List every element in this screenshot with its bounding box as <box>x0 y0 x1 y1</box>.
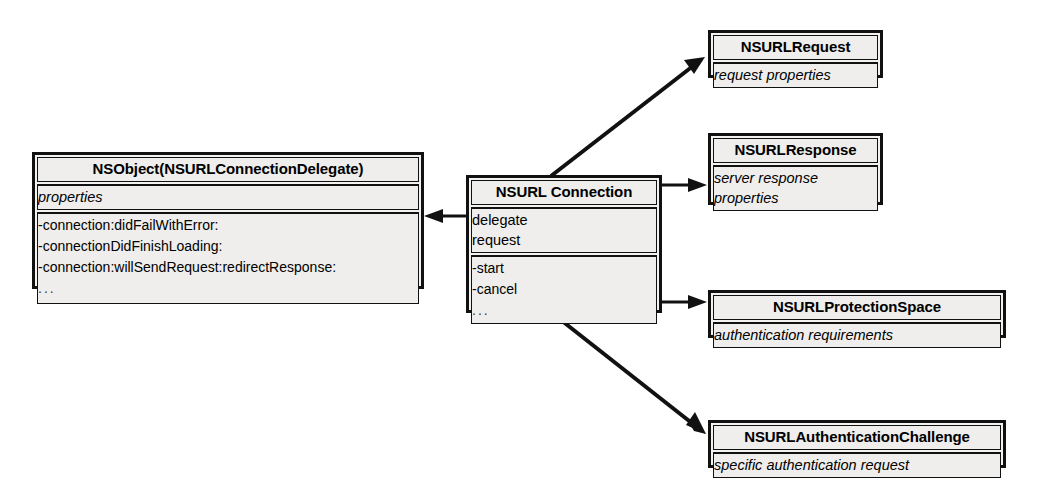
attribute-row: server response <box>714 168 877 188</box>
class-box-nsurlconnection[interactable]: NSURL Connection delegate request -start… <box>466 175 662 313</box>
class-box-nsurlrequest[interactable]: NSURLRequest request properties <box>708 30 883 78</box>
operation-row: -start <box>472 258 656 279</box>
operation-row: -connectionDidFinishLoading: <box>38 236 418 257</box>
attribute-row: request <box>472 230 656 250</box>
operation-row: -cancel <box>472 279 656 300</box>
connector-to-delegate <box>424 209 466 223</box>
operation-row: -connection:didFailWithError: <box>38 215 418 236</box>
attribute-row: properties <box>38 187 418 207</box>
class-box-nsurlprotectionspace[interactable]: NSURLProtectionSpace authentication requ… <box>708 290 1006 338</box>
class-name-nsurlconnection: NSURL Connection <box>471 180 657 205</box>
class-box-nsobject[interactable]: NSObject(NSURLConnectionDelegate) proper… <box>32 152 424 289</box>
attributes-nsobject: properties <box>37 184 419 210</box>
connector-to-request <box>551 57 705 176</box>
class-name-nsurlprotectionspace: NSURLProtectionSpace <box>713 295 1001 320</box>
attributes-nsurlprotectionspace: authentication requirements <box>713 322 1001 348</box>
class-name-nsurlresponse: NSURLResponse <box>713 138 878 163</box>
class-name-nsurlauthenticationchallenge: NSURLAuthenticationChallenge <box>713 425 1001 450</box>
attribute-row: authentication requirements <box>714 325 1000 345</box>
class-name-nsobject: NSObject(NSURLConnectionDelegate) <box>37 157 419 182</box>
class-box-nsurlresponse[interactable]: NSURLResponse server response properties <box>708 133 883 205</box>
connector-to-protectionspace <box>662 295 707 309</box>
operations-nsurlconnection: -start -cancel ... <box>471 255 657 324</box>
operation-row: -connection:willSendRequest:redirectResp… <box>38 257 418 278</box>
attribute-row: properties <box>714 188 877 208</box>
attributes-nsurlauthenticationchallenge: specific authentication request <box>713 452 1001 478</box>
operation-row-ellipsis: ... <box>472 300 656 321</box>
attribute-row: request properties <box>714 65 877 85</box>
operation-row-ellipsis: ... <box>38 278 418 299</box>
diagram-canvas: NSObject(NSURLConnectionDelegate) proper… <box>0 0 1039 488</box>
connector-to-response <box>662 178 707 192</box>
attribute-row: specific authentication request <box>714 455 1000 475</box>
class-box-nsurlauthenticationchallenge[interactable]: NSURLAuthenticationChallenge specific au… <box>708 420 1006 468</box>
connector-to-authchallenge <box>552 313 706 434</box>
attribute-row: delegate <box>472 210 656 230</box>
operations-nsobject: -connection:didFailWithError: -connectio… <box>37 212 419 304</box>
attributes-nsurlrequest: request properties <box>713 62 878 88</box>
attributes-nsurlconnection: delegate request <box>471 207 657 253</box>
class-name-nsurlrequest: NSURLRequest <box>713 35 878 60</box>
attributes-nsurlresponse: server response properties <box>713 165 878 211</box>
